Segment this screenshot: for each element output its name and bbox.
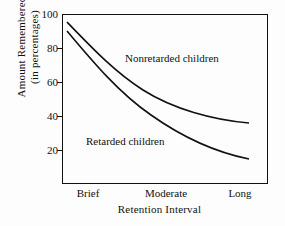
x-axis-title: Retention Interval [0,203,285,215]
y-tick-label-100: 100 [28,9,58,20]
y-tick-label-20: 20 [28,145,58,156]
x-tick-label-long: Long [228,187,251,199]
series-label-retarded: Retarded children [86,135,165,147]
series-label-nonretarded: Nonretarded children [125,52,219,64]
series-line-nonretarded [67,22,249,123]
y-tick-label-80: 80 [28,43,58,54]
x-tick-label-moderate: Moderate [145,187,187,199]
y-axis-title-line1: Amount Remembered [15,0,28,127]
chart-figure: Amount Remembered (in percentages) 100 8… [0,0,285,226]
x-tick-label-brief: Brief [77,187,100,199]
x-axis-title-text: Retention Interval [118,203,201,215]
plot-area: Nonretarded children Retarded children [62,14,268,184]
series-curves [63,15,269,185]
y-tick-label-40: 40 [28,111,58,122]
y-tick-label-60: 60 [28,77,58,88]
